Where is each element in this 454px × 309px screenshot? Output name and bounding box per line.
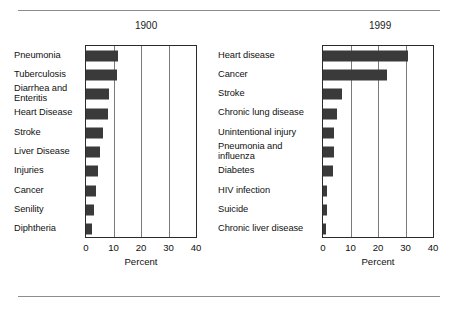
chart-title-1999: 1999 [369,20,391,32]
x-tick-label: 10 [108,242,119,253]
divider-top [18,10,440,11]
category-label: Stroke [14,122,80,141]
category-label: Stroke [218,84,322,103]
category-label-text: Stroke [14,127,41,137]
category-label: Chronic lung disease [218,103,322,122]
bar [86,108,108,119]
category-labels-1900: PneumoniaTuberculosisDiarrhea andEnterit… [14,45,80,238]
bar [323,166,333,177]
bar [86,127,103,138]
bar-row [323,46,433,65]
category-label: Heart Disease [14,103,80,122]
category-label: Heart disease [218,45,322,64]
bar-row [86,143,196,162]
bar [86,89,109,100]
category-label: Diabetes [218,161,322,180]
category-label-text: Stroke [218,88,245,98]
bar [86,147,100,158]
category-label-text: Pneumonia andinfluenza [218,141,282,161]
category-label-text: Diarrhea andEnteritis [14,83,67,103]
category-label-text: Chronic lung disease [218,107,304,117]
bar [323,89,342,100]
chart-title-1900: 1900 [135,20,157,32]
bar-row [323,200,433,219]
bar [323,108,337,119]
bar-row [86,65,196,84]
x-tick-label: 30 [400,242,411,253]
bar [323,50,408,61]
chart-panel-1900: 1900 PneumoniaTuberculosisDiarrhea andEn… [0,20,215,290]
x-tick-label: 40 [191,242,202,253]
category-label: HIV infection [218,180,322,199]
category-label-text: Suicide [218,204,248,214]
bar-row [86,123,196,142]
category-label: Cancer [218,64,322,83]
bar-row [86,220,196,238]
category-label: Tuberculosis [14,64,80,83]
bar-row [323,181,433,200]
x-tick-label: 20 [373,242,384,253]
category-label-text: Cancer [14,185,44,195]
x-axis-1999: Percent 010203040 [322,238,434,268]
category-label: Pneumonia [14,45,80,64]
bar-row [86,162,196,181]
category-label-text: Chronic liver disease [218,223,303,233]
category-label-text: Tuberculosis [14,69,66,79]
category-label: Chronic liver disease [218,219,322,238]
category-label-text: Pneumonia [14,50,61,60]
x-tick-label: 30 [163,242,174,253]
category-label: Senility [14,199,80,218]
bar-row [86,46,196,65]
category-label: Injuries [14,161,80,180]
bar [86,69,117,80]
bar-row [323,123,433,142]
category-label-text: Senility [14,204,44,214]
category-label-text: Unintentional injury [218,127,296,137]
divider-bottom [18,296,440,297]
bar [323,205,327,216]
category-label-text: Liver Disease [14,146,70,156]
bar [323,147,334,158]
category-label-text: Heart disease [218,50,275,60]
x-axis-title-1999: Percent [361,256,394,267]
bar-row [323,85,433,104]
category-label-text: Injuries [14,165,44,175]
bar [323,224,326,235]
x-tick-label: 40 [428,242,439,253]
category-label: Cancer [14,180,80,199]
x-tick-label: 20 [136,242,147,253]
category-label: Liver Disease [14,142,80,161]
bar-row [323,104,433,123]
category-label: Pneumonia andinfluenza [218,142,322,161]
category-label: Suicide [218,199,322,218]
bar-row [323,65,433,84]
bar-row [86,104,196,123]
bar-row [323,143,433,162]
bar-row [86,200,196,219]
bar [323,185,327,196]
x-axis-title-1900: Percent [124,256,157,267]
category-label: Unintentional injury [218,122,322,141]
category-label-text: Diphtheria [14,223,56,233]
x-axis-1900: Percent 010203040 [85,238,197,268]
chart-panel-1999: 1999 Heart diseaseCancerStrokeChronic lu… [212,20,454,290]
category-label: Diarrhea andEnteritis [14,84,80,103]
figure-leading-causes-of-death: 1900 PneumoniaTuberculosisDiarrhea andEn… [0,0,454,309]
x-tick-label: 10 [345,242,356,253]
bar [86,50,118,61]
category-label-text: Cancer [218,69,248,79]
plot-area-1900 [85,45,197,238]
bar [86,205,94,216]
bar-row [323,162,433,181]
x-tick-label: 0 [83,242,88,253]
bar [323,69,387,80]
category-labels-1999: Heart diseaseCancerStrokeChronic lung di… [218,45,322,238]
bar [86,224,92,235]
category-label-text: HIV infection [218,185,270,195]
category-label-text: Heart Disease [14,107,72,117]
bar-row [86,85,196,104]
bar [86,166,98,177]
category-label: Diphtheria [14,219,80,238]
bar [323,127,334,138]
plot-area-1999 [322,45,434,238]
